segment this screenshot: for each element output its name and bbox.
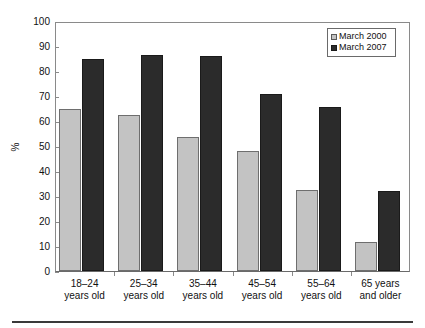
y-axis-tick-mark [55, 222, 59, 223]
x-axis-tick-mark [173, 272, 174, 276]
y-axis-title: % [10, 135, 22, 159]
y-axis-tick-label: 80 [24, 67, 50, 77]
bar [82, 59, 104, 272]
bar [118, 115, 140, 271]
y-axis-tick-label: 60 [24, 117, 50, 127]
x-axis-label-line: years old [114, 290, 173, 302]
plot-area [55, 22, 410, 272]
y-axis-tick-mark [55, 97, 59, 98]
legend-item[interactable]: March 2000 [331, 31, 392, 42]
x-axis-tick-mark [292, 272, 293, 276]
bar [378, 191, 400, 271]
y-axis-tick-label: 50 [24, 142, 50, 152]
x-axis-category-label: 18–24years old [55, 278, 114, 302]
x-axis-label-line: 55–64 [292, 278, 351, 290]
y-axis-tick-label: 30 [24, 192, 50, 202]
legend-item[interactable]: March 2007 [331, 42, 392, 53]
x-axis-label-line: years old [292, 290, 351, 302]
x-axis-category-label: 65 yearsand older [351, 278, 410, 302]
bar [141, 55, 163, 271]
bar [177, 137, 199, 271]
bar [260, 94, 282, 272]
x-axis-label-line: years old [233, 290, 292, 302]
y-axis-tick-label: 90 [24, 42, 50, 52]
bar-chart-figure: % 1009080706050403020100 March 2000 Marc… [0, 0, 425, 328]
bar [355, 242, 377, 271]
y-axis-tick-mark [55, 72, 59, 73]
bar [319, 107, 341, 271]
x-axis-tick-mark [351, 272, 352, 276]
x-axis-category-label: 55–64years old [292, 278, 351, 302]
x-axis-label-line: years old [173, 290, 232, 302]
x-axis-tick-mark [114, 272, 115, 276]
y-axis-tick-mark [55, 147, 59, 148]
bar [296, 190, 318, 271]
bar [59, 109, 81, 272]
y-axis-tick-mark [55, 122, 59, 123]
y-axis-tick-mark [55, 47, 59, 48]
y-axis-tick-label: 40 [24, 167, 50, 177]
y-axis-tick-label: 20 [24, 217, 50, 227]
x-axis-label-line: 45–54 [233, 278, 292, 290]
legend-swatch-icon [331, 34, 337, 40]
x-axis-label-line: 18–24 [55, 278, 114, 290]
y-axis-tick-mark [55, 247, 59, 248]
bottom-divider-rule [12, 321, 413, 323]
x-axis-label-line: 65 years [351, 278, 410, 290]
legend-item-label: March 2000 [339, 31, 387, 42]
x-axis-category-label: 35–44years old [173, 278, 232, 302]
x-axis-label-line: 35–44 [173, 278, 232, 290]
bar [200, 56, 222, 271]
legend-swatch-icon [331, 45, 337, 51]
x-axis-category-label: 25–34years old [114, 278, 173, 302]
y-axis-tick-label: 10 [24, 242, 50, 252]
y-axis-tick-label: 0 [24, 267, 50, 277]
x-axis-tick-mark [233, 272, 234, 276]
x-axis-label-line: 25–34 [114, 278, 173, 290]
y-axis-tick-mark [55, 197, 59, 198]
y-axis-tick-labels: 1009080706050403020100 [22, 22, 50, 272]
chart-legend: March 2000 March 2007 [327, 28, 396, 57]
x-axis-label-line: years old [55, 290, 114, 302]
y-axis-tick-mark [55, 172, 59, 173]
x-axis-label-line: and older [351, 290, 410, 302]
y-axis-tick-label: 70 [24, 92, 50, 102]
y-axis-tick-label: 100 [24, 17, 50, 27]
x-axis-category-label: 45–54years old [233, 278, 292, 302]
y-axis-tick-mark [55, 272, 59, 273]
legend-item-label: March 2007 [339, 42, 387, 53]
bar [237, 151, 259, 271]
